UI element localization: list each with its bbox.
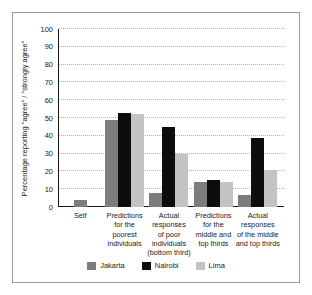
y-tick-label: 90	[45, 43, 53, 51]
bar-nairobi	[207, 180, 220, 207]
legend-swatch-icon	[196, 262, 205, 270]
x-category-label: Actualresponsesof the middleand top thir…	[230, 211, 286, 248]
x-category-line: responses	[230, 220, 286, 229]
bar-group	[147, 29, 191, 207]
bar-group	[191, 29, 235, 207]
y-tick-label: 20	[45, 168, 53, 176]
bar-jakarta	[149, 193, 162, 207]
bar-group	[58, 29, 102, 207]
y-tick-label: 10	[45, 185, 53, 193]
y-axis-title: Percentage reporting "agree" / "strongly…	[19, 29, 31, 207]
y-tick-label: 0	[49, 203, 53, 211]
legend-label: Lima	[209, 261, 225, 270]
bar-lima	[175, 154, 188, 207]
legend-label: Nairobi	[155, 261, 179, 270]
plot-area: 0102030405060708090100 SelfPredictionsfo…	[58, 29, 280, 207]
chart-legend: JakartaNairobiLima	[13, 261, 299, 270]
legend-item-jakarta[interactable]: Jakarta	[87, 261, 125, 270]
y-tick-label: 40	[45, 132, 53, 140]
bar-jakarta	[238, 195, 251, 207]
bar-nairobi	[162, 127, 175, 207]
legend-item-nairobi[interactable]: Nairobi	[142, 261, 179, 270]
bar-lima	[220, 182, 233, 207]
bar-nairobi	[118, 113, 131, 207]
y-tick-label: 100	[40, 25, 53, 33]
legend-label: Jakarta	[100, 261, 125, 270]
x-category-line: and top thirds	[230, 239, 286, 248]
y-tick-label: 70	[45, 79, 53, 87]
y-tick-label: 60	[45, 96, 53, 104]
x-category-line: Actual	[230, 211, 286, 220]
legend-swatch-icon	[87, 262, 96, 270]
y-tick-label: 50	[45, 114, 53, 122]
legend-item-lima[interactable]: Lima	[196, 261, 225, 270]
bar-nairobi	[251, 138, 264, 207]
bar-lima	[264, 170, 277, 207]
x-category-line: (bottom third)	[141, 248, 197, 257]
bar-group	[236, 29, 280, 207]
bar-group	[102, 29, 146, 207]
legend-swatch-icon	[142, 262, 151, 270]
y-axis-title-text: Percentage reporting "agree" / "strongly…	[21, 40, 30, 196]
bar-lima	[131, 114, 144, 207]
x-category-line: of the middle	[230, 230, 286, 239]
y-tick-label: 80	[45, 61, 53, 69]
bar-jakarta	[105, 120, 118, 207]
y-tick-label: 30	[45, 150, 53, 158]
bar-jakarta	[194, 182, 207, 207]
chart-figure: Percentage reporting "agree" / "strongly…	[12, 12, 300, 283]
bar-jakarta	[74, 200, 87, 207]
